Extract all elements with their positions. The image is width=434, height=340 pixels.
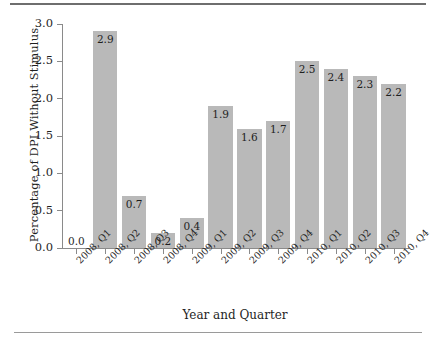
y-axis-tick-label: 2.5 (35, 53, 53, 67)
x-axis-tick-mark (394, 249, 395, 254)
bar-value-label: 1.7 (264, 123, 293, 135)
x-axis-tick-mark (163, 249, 164, 254)
x-axis-tick-mark (336, 249, 337, 254)
bar-slot: 2.3 (350, 24, 379, 248)
y-axis-tick-label: 1.0 (35, 165, 53, 179)
bar-slot: 2.2 (379, 24, 408, 248)
bar-slot: 0.7 (120, 24, 149, 248)
bar-slot: 0.2 (149, 24, 178, 248)
y-axis-tick-label: 2.0 (35, 91, 53, 105)
bar[interactable] (295, 61, 319, 248)
plot-area: 0.00.51.01.52.02.53.0 0.02.90.70.20.41.9… (62, 24, 408, 248)
bar[interactable] (324, 69, 348, 248)
x-axis-title: Year and Quarter (62, 308, 408, 322)
bar-slot: 0.0 (62, 24, 91, 248)
bar-value-label: 2.3 (350, 78, 379, 90)
bar-slot: 0.4 (177, 24, 206, 248)
y-axis-tick-label: 1.5 (35, 128, 53, 142)
y-axis-tick-label: 0.5 (35, 203, 53, 217)
bar-value-label: 1.9 (206, 108, 235, 120)
bar[interactable] (353, 76, 377, 248)
bar[interactable] (93, 31, 117, 248)
bar-value-label: 2.9 (91, 33, 120, 45)
bar-slot: 1.7 (264, 24, 293, 248)
y-axis-tick-label: 0.0 (35, 240, 53, 254)
bar-series: 0.02.90.70.20.41.91.61.72.52.42.32.2 (62, 24, 408, 248)
bar-slot: 1.9 (206, 24, 235, 248)
bar-slot: 2.9 (91, 24, 120, 248)
figure: Percentage of DPI Without Stimulus 0.00.… (0, 0, 434, 340)
x-axis-tick-mark (365, 249, 366, 254)
top-divider-rule (10, 3, 426, 5)
bar-value-label: 0.7 (120, 198, 149, 210)
bar-value-label: 2.5 (293, 63, 322, 75)
bar-value-label: 1.6 (235, 131, 264, 143)
bar-value-label: 2.2 (379, 86, 408, 98)
bar[interactable] (381, 84, 405, 248)
bottom-divider-rule (14, 332, 422, 333)
bar-slot: 1.6 (235, 24, 264, 248)
x-axis-tick-mark (192, 249, 193, 254)
bar-value-label: 2.4 (322, 71, 351, 83)
bar-slot: 2.5 (293, 24, 322, 248)
x-axis-tick-mark (221, 249, 222, 254)
bar-slot: 2.4 (322, 24, 351, 248)
y-axis-tick-label: 3.0 (35, 16, 53, 30)
